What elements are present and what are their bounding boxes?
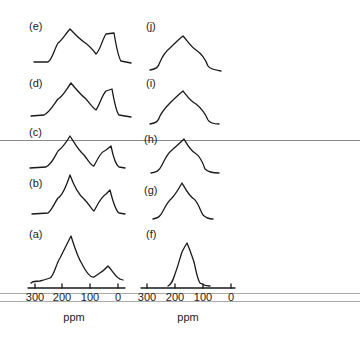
tick-label: 300 xyxy=(26,291,44,303)
spectrum-i xyxy=(150,91,219,124)
spectrum-f xyxy=(168,243,210,286)
spectrum-g xyxy=(153,183,213,219)
tick-label: 200 xyxy=(166,291,184,303)
tick-label: 0 xyxy=(228,291,234,303)
tick-label: 0 xyxy=(115,291,121,303)
spectra-plot xyxy=(0,0,360,340)
tick-label: 100 xyxy=(81,291,99,303)
tick-label: 200 xyxy=(53,291,71,303)
spectrum-d xyxy=(31,83,131,117)
spectrum-c xyxy=(30,136,125,168)
spectrum-h xyxy=(151,139,219,173)
spectrum-a xyxy=(31,236,123,283)
tick-label: 100 xyxy=(194,291,212,303)
x-axis-title-right: ppm xyxy=(177,311,198,323)
spectrum-b xyxy=(32,175,125,214)
spectrum-j xyxy=(150,36,221,71)
x-axis-title-left: ppm xyxy=(63,311,84,323)
tick-label: 300 xyxy=(138,291,156,303)
spectrum-e xyxy=(34,29,131,63)
